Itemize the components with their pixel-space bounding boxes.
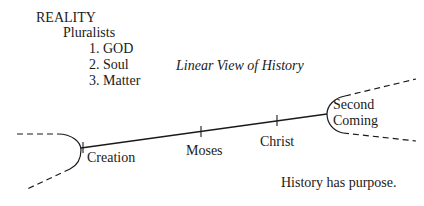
- left-bottom-dashed-line: [25, 169, 70, 190]
- event-label-coming: Coming: [333, 113, 378, 129]
- left-arc: [58, 134, 81, 169]
- event-label-creation: Creation: [87, 150, 135, 166]
- diagram-title: Linear View of History: [176, 58, 304, 74]
- diagram-caption: History has purpose.: [281, 175, 397, 191]
- linear-history-diagram: REALITY Pluralists 1. GOD 2. Soul 3. Mat…: [0, 0, 424, 206]
- right-bottom-dashed-line: [343, 133, 416, 141]
- event-label-second: Second: [333, 97, 374, 113]
- creation-bracket: [17, 134, 81, 190]
- event-label-moses: Moses: [186, 143, 223, 159]
- outline-subheading: Pluralists: [63, 25, 115, 41]
- outline-heading: REALITY: [36, 10, 96, 26]
- outline-item: 3. Matter: [89, 73, 140, 89]
- outline-item: 1. GOD: [89, 41, 133, 57]
- outline-item: 2. Soul: [89, 57, 129, 73]
- event-label-christ: Christ: [260, 134, 294, 150]
- right-top-dashed-line: [345, 79, 416, 96]
